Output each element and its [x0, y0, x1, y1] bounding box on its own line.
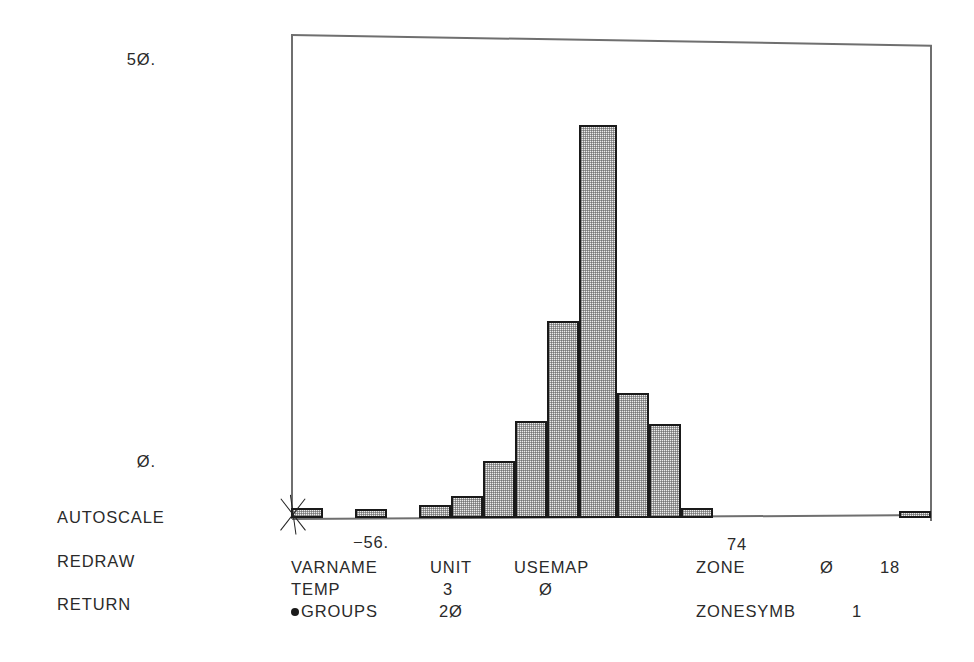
histogram-bars: [291, 34, 932, 518]
histogram-bar: [579, 125, 617, 518]
histogram-bar: [355, 509, 387, 518]
y-tick-label-0: Ø.: [96, 452, 156, 471]
param-value-zonesymb[interactable]: 1: [852, 600, 862, 622]
param-value-zone-max[interactable]: 18: [880, 556, 900, 578]
param-header-usemap: USEMAP: [514, 556, 589, 578]
histogram-bar: [649, 424, 681, 518]
param-row-groups[interactable]: GROUPS: [291, 600, 378, 622]
histogram-bar: [681, 508, 713, 518]
param-header-varname: VARNAME: [291, 556, 378, 578]
y-tick-label-50: 5Ø.: [96, 50, 156, 69]
x-tick-label-max: 74: [727, 535, 747, 554]
param-value-usemap[interactable]: Ø: [539, 578, 553, 600]
param-header-unit: UNIT: [430, 556, 472, 578]
histogram-bar: [899, 511, 931, 518]
param-value-groups[interactable]: 2Ø: [439, 600, 463, 622]
selected-bullet-icon: [291, 608, 299, 616]
histogram-bar: [451, 496, 483, 518]
x-tick-label-min: −56.: [353, 533, 389, 552]
histogram-bar: [419, 505, 451, 518]
histogram-bar: [483, 461, 515, 518]
histogram-bar: [547, 321, 579, 518]
histogram-bar: [515, 421, 547, 518]
menu-item-return[interactable]: RETURN: [57, 595, 131, 614]
param-value-zone-min[interactable]: Ø: [820, 556, 834, 578]
param-value-varname[interactable]: TEMP: [291, 578, 340, 600]
param-value-unit[interactable]: 3: [443, 578, 453, 600]
param-label-zonesymb: ZONESYMB: [696, 600, 796, 622]
menu-item-autoscale[interactable]: AUTOSCALE: [57, 508, 165, 527]
histogram-bar: [617, 393, 649, 518]
param-header-zone: ZONE: [696, 556, 745, 578]
menu-item-redraw[interactable]: REDRAW: [57, 552, 135, 571]
param-label-groups: GROUPS: [301, 602, 378, 620]
